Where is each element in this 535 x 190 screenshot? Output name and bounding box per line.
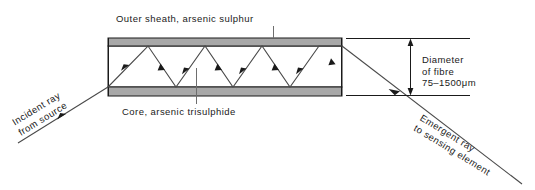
outer-sheath-top-band: [108, 38, 342, 46]
diameter-label-line-2: of fibre: [422, 66, 476, 78]
diameter-label-line-1: Diameter: [422, 54, 476, 66]
outer-sheath-label: Outer sheath, arsenic sulphur: [116, 13, 254, 25]
fibre-diagram: [0, 0, 535, 190]
diameter-label: Diameter of fibre 75–1500μm: [422, 54, 476, 89]
core-label: Core, arsenic trisulphide: [122, 106, 236, 118]
fibre-core: [108, 46, 342, 87]
diameter-label-line-3: 75–1500μm: [422, 77, 476, 89]
fibre-assembly: [108, 38, 342, 96]
outer-sheath-bottom-band: [108, 87, 342, 96]
